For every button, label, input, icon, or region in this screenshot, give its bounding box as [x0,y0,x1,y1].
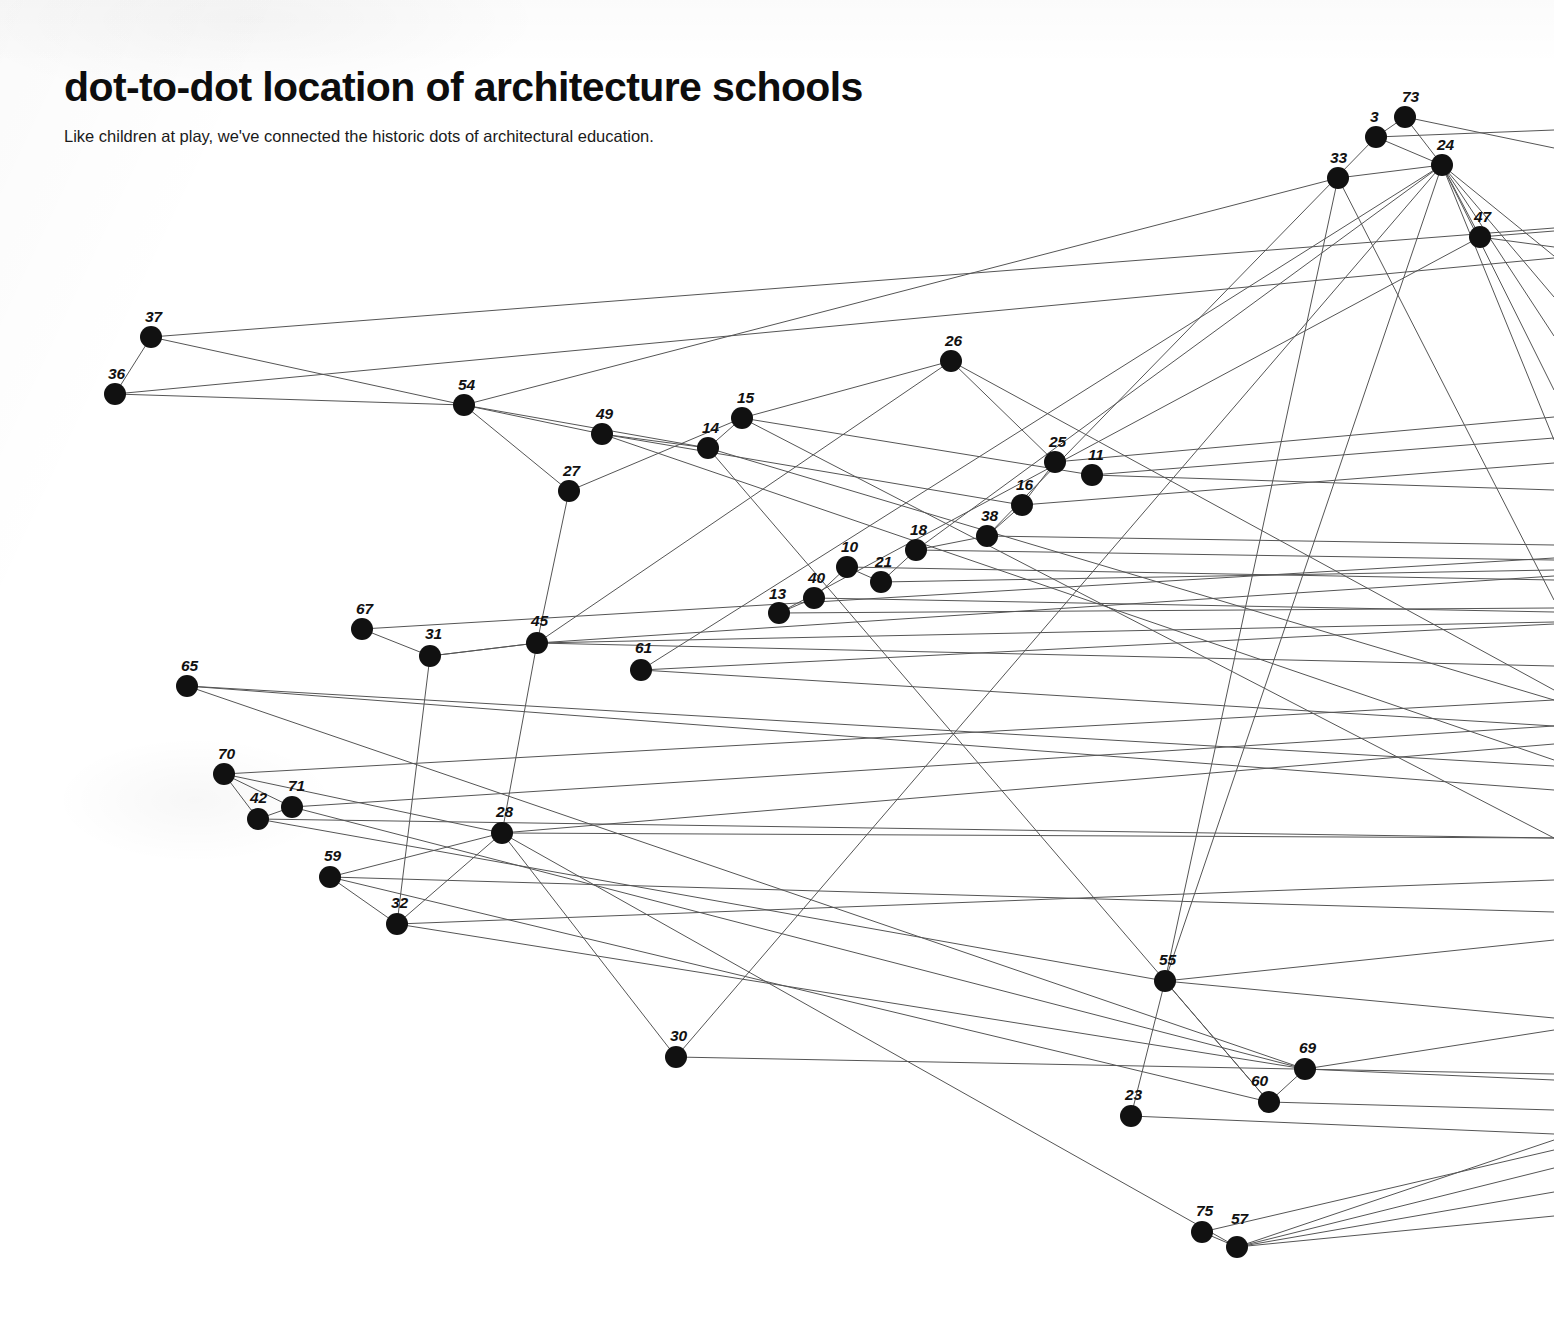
edge-offpage [1405,117,1554,148]
network-node-28[interactable] [491,822,513,844]
edge-offpage [1165,940,1554,981]
edge [330,877,397,924]
edge-offpage [1442,165,1554,336]
edge [397,924,1305,1069]
network-node-16[interactable] [1011,494,1033,516]
network-node-26[interactable] [940,350,962,372]
node-label-21: 21 [875,553,892,571]
edge-offpage [676,1057,1554,1074]
node-label-38: 38 [981,507,998,525]
edge [151,337,464,405]
network-node-18[interactable] [905,539,927,561]
network-node-23[interactable] [1120,1105,1142,1127]
edge [464,405,602,434]
edge-offpage [1442,165,1554,440]
edge-offpage [847,567,1554,580]
network-node-71[interactable] [281,796,303,818]
network-node-59[interactable] [319,866,341,888]
edge-offpage [742,418,1554,838]
node-label-45: 45 [531,612,548,630]
node-label-71: 71 [288,777,305,795]
edge [602,434,708,448]
node-label-25: 25 [1049,433,1066,451]
network-node-42[interactable] [247,808,269,830]
edge-offpage [187,686,1554,766]
network-node-32[interactable] [386,913,408,935]
node-label-27: 27 [563,462,580,480]
edge-offpage [1269,1102,1554,1110]
edge-offpage [1131,1116,1554,1134]
node-label-65: 65 [181,657,198,675]
network-node-65[interactable] [176,675,198,697]
edge [330,877,1269,1102]
network-node-30[interactable] [665,1046,687,1068]
edge-offpage [1376,130,1554,137]
edge [502,833,1237,1247]
edge-offpage [1055,417,1554,462]
edge-offpage [292,726,1554,807]
network-node-15[interactable] [731,407,753,429]
edge-offpage [1202,1150,1554,1232]
network-node-13[interactable] [768,602,790,624]
network-node-69[interactable] [1294,1058,1316,1080]
node-label-11: 11 [1088,446,1104,464]
network-node-40[interactable] [803,587,825,609]
network-node-38[interactable] [976,525,998,547]
edge-offpage [1305,1069,1554,1080]
edge-offpage [1237,1168,1554,1247]
network-node-14[interactable] [697,437,719,459]
edges-layer [115,117,1554,1247]
node-label-60: 60 [1251,1072,1268,1090]
network-node-47[interactable] [1469,226,1491,248]
node-label-3: 3 [1370,108,1378,126]
node-label-26: 26 [945,332,962,350]
network-node-54[interactable] [453,394,475,416]
dot-to-dot-network-plot [0,0,1554,1322]
edge [397,656,430,924]
network-node-49[interactable] [591,423,613,445]
node-label-30: 30 [670,1027,687,1045]
scanned-infographic-page: dot-to-dot location of architecture scho… [0,0,1554,1322]
network-node-10[interactable] [836,556,858,578]
node-label-24: 24 [1437,136,1454,154]
node-label-54: 54 [458,376,475,394]
network-node-21[interactable] [870,571,892,593]
network-node-25[interactable] [1044,451,1066,473]
node-label-14: 14 [702,419,719,437]
network-node-11[interactable] [1081,464,1103,486]
network-node-37[interactable] [140,326,162,348]
node-label-32: 32 [391,894,408,912]
node-label-18: 18 [910,521,927,539]
node-label-28: 28 [496,803,513,821]
node-label-40: 40 [808,569,825,587]
network-node-75[interactable] [1191,1221,1213,1243]
nodes-layer [104,106,1491,1258]
network-node-70[interactable] [213,763,235,785]
network-node-27[interactable] [558,480,580,502]
edge-offpage [1480,237,1554,247]
network-node-33[interactable] [1327,167,1349,189]
edge [742,361,951,418]
network-node-67[interactable] [351,618,373,640]
network-node-45[interactable] [526,632,548,654]
node-label-57: 57 [1231,1210,1248,1228]
network-node-3[interactable] [1365,126,1387,148]
network-node-36[interactable] [104,383,126,405]
network-node-61[interactable] [630,659,652,681]
edge [464,178,1338,405]
edge-offpage [779,608,1554,613]
network-node-31[interactable] [419,645,441,667]
edge-offpage [1305,1030,1554,1069]
edge [430,643,537,656]
network-node-57[interactable] [1226,1236,1248,1258]
network-node-60[interactable] [1258,1091,1280,1113]
node-label-70: 70 [218,745,235,763]
edge-offpage [1442,165,1554,256]
edge-offpage [1237,1140,1554,1247]
network-node-24[interactable] [1431,154,1453,176]
network-node-55[interactable] [1154,970,1176,992]
network-node-73[interactable] [1394,106,1416,128]
edge-offpage [1165,981,1554,1018]
node-label-55: 55 [1159,951,1176,969]
edge [292,807,1305,1069]
